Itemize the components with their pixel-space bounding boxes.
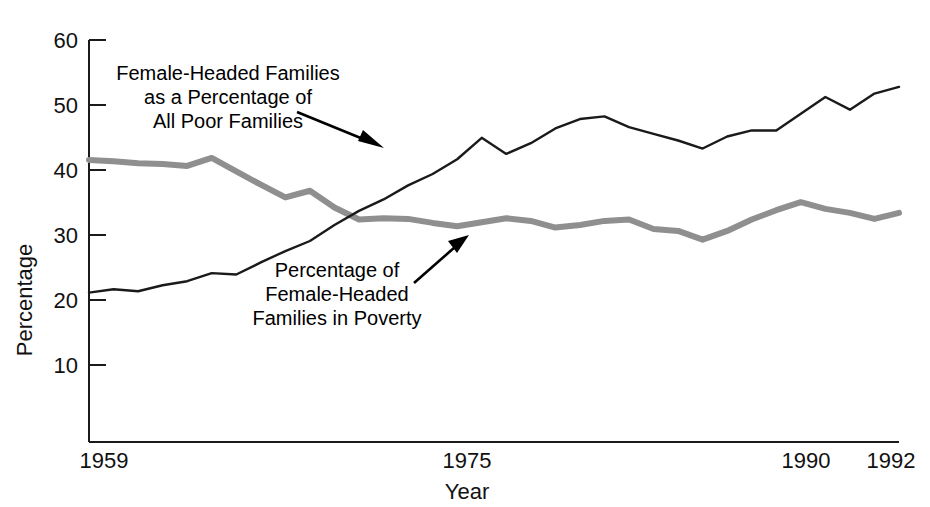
series-line-in-poverty	[89, 158, 899, 240]
y-tick-label-40: 40	[54, 158, 78, 183]
annotation-poor-families-line-2: as a Percentage of	[144, 86, 312, 108]
annotation-in-poverty-line-1: Percentage of	[275, 259, 400, 281]
y-axis-title: Percentage	[12, 244, 37, 357]
annotation-in-poverty-arrow-line	[414, 247, 455, 283]
annotation-in-poverty: Percentage of Female-Headed Families in …	[253, 235, 469, 329]
x-axis-title: Year	[445, 479, 489, 504]
y-tick-label-10: 10	[54, 353, 78, 378]
y-axis-ticks	[89, 40, 106, 365]
chart-container: 60 50 40 30 20 10 Percentage 1959 1975 1…	[0, 0, 930, 507]
annotation-poor-families-line-1: Female-Headed Families	[116, 62, 339, 84]
x-tick-label-1959: 1959	[80, 448, 129, 473]
annotation-poor-families-arrow-head	[358, 130, 384, 148]
annotation-poor-families: Female-Headed Families as a Percentage o…	[116, 62, 384, 148]
y-tick-label-50: 50	[54, 93, 78, 118]
x-tick-label-1975: 1975	[443, 448, 492, 473]
y-tick-label-60: 60	[54, 28, 78, 53]
y-tick-label-20: 20	[54, 288, 78, 313]
y-tick-label-30: 30	[54, 223, 78, 248]
annotation-in-poverty-line-3: Families in Poverty	[253, 307, 422, 329]
annotation-poor-families-arrow-line	[297, 112, 368, 141]
line-chart: 60 50 40 30 20 10 Percentage 1959 1975 1…	[0, 0, 930, 507]
x-tick-label-1990: 1990	[782, 448, 831, 473]
annotation-in-poverty-line-2: Female-Headed	[265, 283, 408, 305]
annotation-poor-families-line-3: All Poor Families	[153, 110, 303, 132]
x-tick-label-1992: 1992	[867, 448, 916, 473]
